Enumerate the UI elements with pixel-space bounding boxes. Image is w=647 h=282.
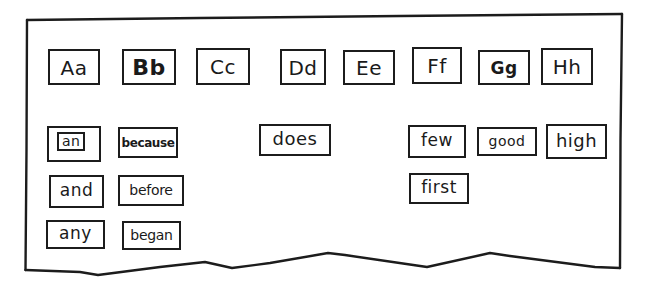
word-card-an: an — [47, 126, 101, 162]
word-card-does: does — [259, 124, 331, 156]
word-card-high: high — [546, 124, 607, 159]
word-card-because: because — [118, 127, 178, 158]
word-label: good — [489, 134, 526, 148]
word-card-and: and — [49, 175, 104, 208]
word-card-few: few — [408, 125, 466, 158]
word-label: because — [122, 137, 175, 149]
word-label: few — [421, 132, 453, 149]
letter-card-hh: Hh — [541, 48, 593, 85]
letter-label: Gg — [490, 60, 517, 77]
letter-label: Cc — [210, 57, 236, 77]
letter-card-ff: Ff — [412, 47, 462, 84]
letter-label: Aa — [61, 58, 88, 78]
word-label: any — [59, 225, 92, 242]
letter-card-dd: Dd — [280, 49, 326, 85]
word-label: an — [57, 132, 85, 151]
word-label: first — [421, 179, 457, 196]
letter-label: Bb — [132, 57, 166, 79]
word-card-good: good — [477, 127, 537, 156]
letter-card-bb: Bb — [122, 49, 176, 85]
letter-label: Dd — [288, 58, 317, 78]
word-label: high — [556, 132, 597, 150]
letter-card-aa: Aa — [48, 49, 100, 85]
word-label: before — [129, 183, 172, 197]
word-label: began — [130, 228, 172, 242]
word-card-first: first — [409, 173, 469, 204]
letter-label: Ee — [356, 58, 382, 78]
letter-card-ee: Ee — [343, 50, 395, 85]
word-label: and — [60, 182, 93, 199]
letter-card-gg: Gg — [478, 50, 530, 85]
letter-label: Ff — [427, 56, 447, 76]
word-card-began: began — [122, 221, 181, 250]
letter-label: Hh — [553, 57, 582, 77]
word-card-any: any — [46, 220, 105, 249]
letter-card-cc: Cc — [196, 48, 250, 85]
word-label: does — [273, 130, 318, 148]
word-card-before: before — [118, 175, 184, 206]
